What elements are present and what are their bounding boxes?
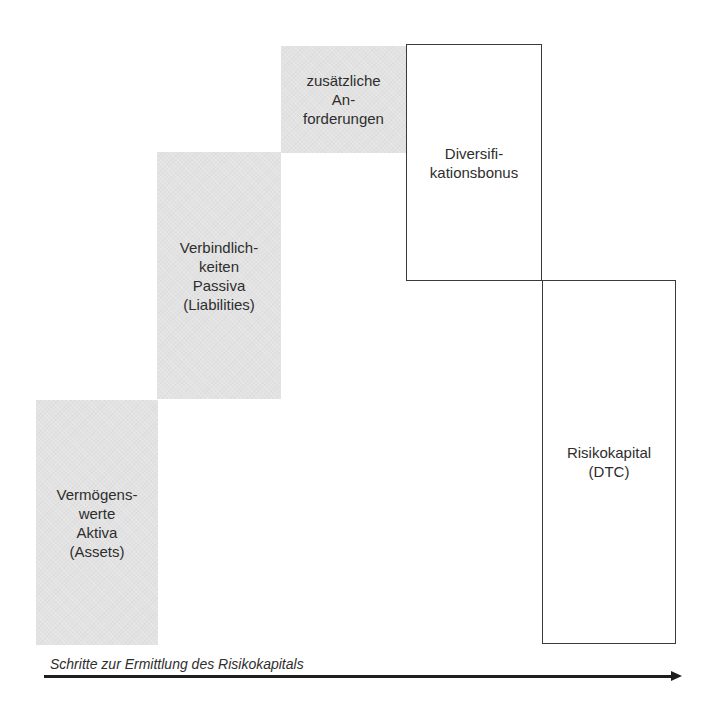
step-risk-capital-box: Risikokapital (DTC): [542, 280, 676, 644]
axis-arrow-line: [44, 675, 674, 678]
step-additional-requirements-box: zusätzliche An- forderungen: [281, 46, 406, 153]
step-risk-capital-label: Risikokapital (DTC): [567, 443, 651, 481]
step-additional-requirements-label: zusätzliche An- forderungen: [303, 71, 384, 128]
step-liabilities-label: Verbindlich- keiten Passiva (Liabilities…: [180, 238, 258, 314]
step-assets-box: Vermögens- werte Aktiva (Assets): [36, 400, 158, 645]
step-diversification-bonus-label: Diversifi- kationsbonus: [430, 144, 518, 182]
arrow-right-icon: [671, 671, 682, 681]
step-diversification-bonus-box: Diversifi- kationsbonus: [406, 44, 542, 281]
step-assets-label: Vermögens- werte Aktiva (Assets): [57, 485, 138, 561]
axis-label: Schritte zur Ermittlung des Risikokapita…: [50, 656, 304, 672]
step-liabilities-box: Verbindlich- keiten Passiva (Liabilities…: [157, 152, 281, 399]
